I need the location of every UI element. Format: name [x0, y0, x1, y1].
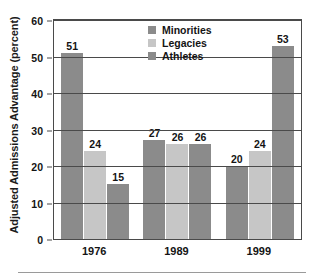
gridline-20: [54, 166, 301, 167]
bar-value-label: 26: [195, 131, 207, 143]
legend-swatch-icon: [148, 26, 156, 34]
legend-label: Minorities: [162, 24, 212, 36]
bar-fill: [272, 46, 294, 239]
bar-fill: [61, 53, 83, 239]
gridline-10: [54, 203, 301, 204]
legend-label: Legacies: [162, 37, 207, 49]
bar-value-label: 53: [277, 33, 289, 45]
bar-fill: [249, 151, 271, 239]
y-tick-mark-0: [47, 240, 52, 241]
bar-value-label: 24: [89, 138, 101, 150]
legend-item-minorities[interactable]: Minorities: [148, 23, 212, 36]
y-tick-mark-30: [47, 130, 52, 131]
x-tick-label-1989: 1989: [137, 245, 217, 257]
legend-item-athletes[interactable]: Athletes: [148, 49, 212, 62]
bar-fill: [166, 144, 188, 239]
y-tick-mark-10: [47, 203, 52, 204]
bar-1999-athletes[interactable]: 53: [272, 46, 294, 239]
bar-1999-legacies[interactable]: 24: [249, 151, 271, 239]
cropped-title-sliver: [60, 0, 260, 2]
gridline-30: [54, 130, 301, 131]
chart-figure: Adjusted Admissions Advantage (percent) …: [0, 0, 318, 279]
y-tick-mark-40: [47, 94, 52, 95]
bar-value-label: 26: [172, 131, 184, 143]
y-tick-label-30: 30: [17, 125, 43, 137]
legend-item-legacies[interactable]: Legacies: [148, 36, 212, 49]
bar-1976-athletes[interactable]: 15: [107, 184, 129, 239]
bar-value-label: 51: [66, 40, 78, 52]
bar-1976-minorities[interactable]: 51: [61, 53, 83, 239]
bar-1989-athletes[interactable]: 26: [189, 144, 211, 239]
bar-fill: [107, 184, 129, 239]
bar-value-label: 20: [231, 153, 243, 165]
y-tick-mark-20: [47, 167, 52, 168]
y-tick-label-60: 60: [17, 15, 43, 27]
y-tick-label-0: 0: [17, 234, 43, 246]
y-tick-label-50: 50: [17, 52, 43, 64]
y-tick-mark-50: [47, 57, 52, 58]
legend-swatch-icon: [148, 52, 156, 60]
footer-rule: [18, 272, 306, 273]
gridline-60: [54, 20, 301, 21]
bar-value-label: 15: [112, 171, 124, 183]
bar-value-label: 24: [254, 138, 266, 150]
bar-fill: [143, 140, 165, 239]
y-tick-label-10: 10: [17, 198, 43, 210]
x-tick-label-1999: 1999: [219, 245, 299, 257]
chart-legend: MinoritiesLegaciesAthletes: [148, 23, 212, 62]
bar-fill: [84, 151, 106, 239]
y-tick-label-20: 20: [17, 161, 43, 173]
gridline-40: [54, 93, 301, 94]
y-tick-mark-60: [47, 21, 52, 22]
bar-1989-minorities[interactable]: 27: [143, 140, 165, 239]
bar-1976-legacies[interactable]: 24: [84, 151, 106, 239]
bar-1989-legacies[interactable]: 26: [166, 144, 188, 239]
y-tick-label-40: 40: [17, 88, 43, 100]
legend-swatch-icon: [148, 39, 156, 47]
bar-fill: [189, 144, 211, 239]
legend-label: Athletes: [162, 50, 203, 62]
x-tick-label-1976: 1976: [54, 245, 134, 257]
